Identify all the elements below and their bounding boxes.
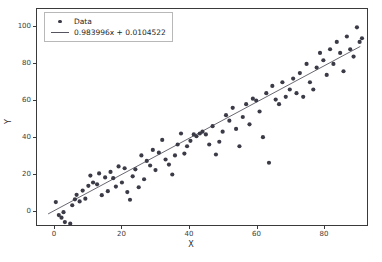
scatter-point	[125, 190, 129, 194]
scatter-point	[133, 167, 137, 171]
scatter-point	[277, 102, 281, 106]
x-tick-label: 20	[117, 230, 126, 238]
scatter-point	[145, 159, 149, 163]
scatter-point	[68, 221, 72, 225]
scatter-point	[142, 177, 146, 181]
scatter-point	[264, 91, 268, 95]
scatter-point	[123, 166, 127, 170]
y-tick-label: 0	[27, 207, 31, 215]
scatter-point	[210, 124, 214, 128]
y-tick-label: 20	[22, 170, 31, 178]
scatter-point	[318, 51, 322, 55]
scatter-point	[63, 220, 67, 224]
scatter-point	[360, 36, 364, 40]
scatter-point	[227, 119, 231, 123]
scatter-point	[182, 152, 186, 156]
scatter-point	[355, 25, 359, 29]
scatter-point	[160, 138, 164, 142]
scatter-point	[231, 106, 235, 110]
scatter-point	[88, 173, 92, 177]
legend-marker-dot-icon	[49, 20, 71, 24]
scatter-point	[153, 168, 157, 172]
legend-entry-fit: 0.983996x + 0.0104522	[49, 27, 166, 38]
scatter-point	[200, 130, 204, 134]
x-tick-mark	[54, 226, 55, 229]
scatter-point	[54, 200, 58, 204]
scatter-point	[308, 80, 312, 84]
scatter-point	[298, 71, 302, 75]
scatter-point	[301, 95, 305, 99]
scatter-point	[114, 184, 118, 188]
y-tick-mark	[33, 26, 36, 27]
scatter-point	[78, 199, 82, 203]
x-tick-label: 0	[52, 230, 56, 238]
scatter-point	[116, 164, 120, 168]
regression-line	[48, 46, 360, 214]
scatter-point	[207, 142, 211, 146]
scatter-point	[100, 193, 104, 197]
scatter-point	[304, 62, 308, 66]
scatter-point	[291, 76, 295, 80]
scatter-point	[111, 176, 115, 180]
scatter-point	[131, 174, 135, 178]
scatter-point	[270, 84, 274, 88]
scatter-point	[163, 157, 167, 161]
scatter-point	[73, 197, 77, 201]
scatter-point	[294, 91, 298, 95]
x-tick-mark	[324, 226, 325, 229]
y-tick-mark	[33, 63, 36, 64]
scatter-point	[234, 127, 238, 131]
scatter-point	[335, 40, 339, 44]
scatter-point	[254, 98, 258, 102]
y-tick-label: 80	[22, 59, 31, 67]
scatter-point	[167, 163, 171, 167]
y-tick-label: 60	[22, 96, 31, 104]
scatter-point	[75, 193, 79, 197]
x-tick-mark	[189, 226, 190, 229]
scatter-point	[244, 102, 248, 106]
scatter-point	[170, 172, 174, 176]
scatter-point	[151, 148, 155, 152]
x-tick-mark	[257, 226, 258, 229]
scatter-point	[224, 113, 228, 117]
y-tick-mark	[33, 174, 36, 175]
y-tick-mark	[33, 211, 36, 212]
scatter-point	[139, 153, 143, 157]
legend-label-data: Data	[71, 17, 92, 26]
scatter-point	[284, 95, 288, 99]
scatter-point	[120, 180, 124, 184]
x-axis-label: X	[0, 240, 382, 249]
scatter-point	[321, 58, 325, 62]
scatter-point	[257, 109, 261, 113]
scatter-point	[328, 47, 332, 51]
x-tick-mark	[121, 226, 122, 229]
chart-legend: Data 0.983996x + 0.0104522	[44, 12, 173, 42]
scatter-point	[128, 198, 132, 202]
scatter-point	[214, 152, 218, 156]
scatter-point	[338, 51, 342, 55]
scatter-point	[86, 184, 90, 188]
y-tick-mark	[33, 137, 36, 138]
scatter-point	[157, 151, 161, 155]
scatter-point	[217, 140, 221, 144]
x-tick-label: 80	[320, 230, 329, 238]
scatter-point	[91, 180, 95, 184]
scatter-point	[194, 134, 198, 138]
scatter-point	[345, 34, 349, 38]
scatter-point	[315, 65, 319, 69]
scatter-point	[241, 115, 245, 119]
scatter-point	[108, 170, 112, 174]
figure-canvas: 020406080100020406080 X Y Data 0.983996x…	[0, 0, 382, 262]
y-axis-label: Y	[4, 110, 13, 134]
scatter-point	[311, 87, 315, 91]
scatter-point	[358, 40, 362, 44]
scatter-point	[83, 197, 87, 201]
scatter-point	[280, 80, 284, 84]
scatter-point	[237, 144, 241, 148]
scatter-point	[204, 132, 208, 136]
scatter-point	[325, 73, 329, 77]
scatter-point	[81, 189, 85, 193]
scatter-point	[185, 144, 189, 148]
scatter-point	[247, 122, 251, 126]
scatter-point	[97, 171, 101, 175]
